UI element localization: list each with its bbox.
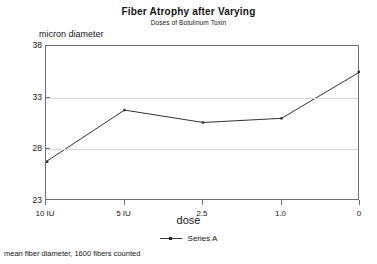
legend-swatch-series-a	[160, 235, 182, 243]
data-point	[46, 161, 48, 163]
plot-area	[45, 45, 359, 200]
chart-title: Fiber Atrophy after Varying	[0, 6, 377, 17]
chart-subtitle: Doses of Botulinum Toxin	[0, 19, 377, 26]
x-tick-mark	[359, 200, 360, 205]
x-tick-mark	[124, 200, 125, 205]
y-tick-label: 38	[24, 40, 42, 50]
gridline	[46, 98, 358, 99]
y-tick-label: 28	[24, 143, 42, 153]
series-line-series-a	[46, 46, 360, 201]
chart-legend: Series A	[0, 234, 377, 243]
x-axis-label: dose	[0, 214, 377, 226]
x-tick-mark	[281, 200, 282, 205]
x-tick-mark	[45, 200, 46, 205]
gridline	[46, 149, 358, 150]
x-tick-mark	[202, 200, 203, 205]
data-point	[202, 121, 204, 123]
legend-label-series-a: Series A	[188, 234, 218, 243]
data-point	[123, 109, 125, 111]
y-tick-label: 23	[24, 195, 42, 205]
data-point	[280, 117, 282, 119]
y-tick-mark	[45, 148, 50, 149]
y-axis-label: micron diameter	[39, 29, 104, 39]
data-point	[358, 71, 360, 73]
chart-footnote: mean fiber diameter, 1600 fibers counted	[4, 249, 140, 258]
chart-container: Fiber Atrophy after Varying Doses of Bot…	[0, 0, 377, 264]
y-tick-label: 33	[24, 92, 42, 102]
y-tick-mark	[45, 97, 50, 98]
